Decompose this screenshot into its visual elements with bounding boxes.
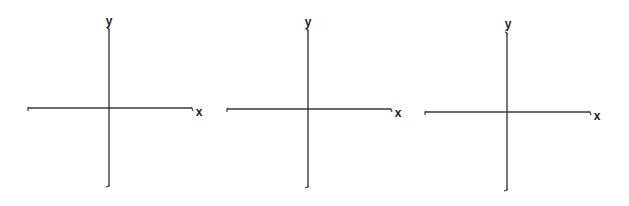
y-axis-bottom-end-tick [106,185,109,187]
x-axis-left-end-tick [425,111,426,115]
y-axis-bottom-end-tick [504,189,507,191]
x-axis-left-end-tick [28,107,29,111]
y-axis-top-end-tick [306,29,308,31]
x-axis-label: x [196,105,203,119]
axes-figure: x y x y x y [0,0,629,206]
y-axis-bottom-end-tick [305,186,308,188]
x-axis-right-end-tick [589,112,591,115]
coordinate-axes-1: x y [28,14,203,187]
y-axis-label: y [106,14,113,28]
x-axis-label: x [395,106,402,120]
coordinate-axes-3: x y [425,17,601,191]
coordinate-axes-2: x y [227,15,402,188]
y-axis-label: y [505,17,512,31]
x-axis-left-end-tick [227,108,228,112]
y-axis-label: y [305,15,312,29]
x-axis-right-end-tick [390,109,392,112]
x-axis-label: x [594,109,601,123]
y-axis-top-end-tick [107,28,109,30]
x-axis-right-end-tick [191,108,193,111]
y-axis-top-end-tick [505,32,507,34]
